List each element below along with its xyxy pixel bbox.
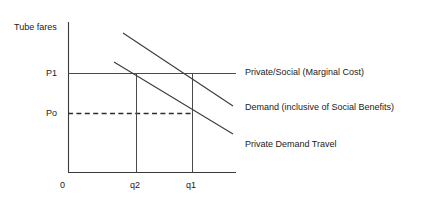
quantity-label-q1: q1 <box>186 181 196 190</box>
tube-fares-economics-diagram: Tube fares P1 Po 0 q2 q1 Private/Social … <box>0 0 426 203</box>
quantity-label-q2: q2 <box>130 181 140 190</box>
private-demand-curve <box>114 62 233 134</box>
price-label-po: Po <box>46 109 57 118</box>
legend-label-social-demand: Demand (inclusive of Social Benefits) <box>245 103 394 112</box>
origin-label: 0 <box>60 181 65 190</box>
y-axis-label: Tube fares <box>14 23 57 32</box>
price-label-p1: P1 <box>46 69 57 78</box>
social-demand-curve <box>123 33 233 106</box>
legend-label-private-demand: Private Demand Travel <box>245 140 337 149</box>
legend-label-marginal-cost: Private/Social (Marginal Cost) <box>245 68 364 77</box>
